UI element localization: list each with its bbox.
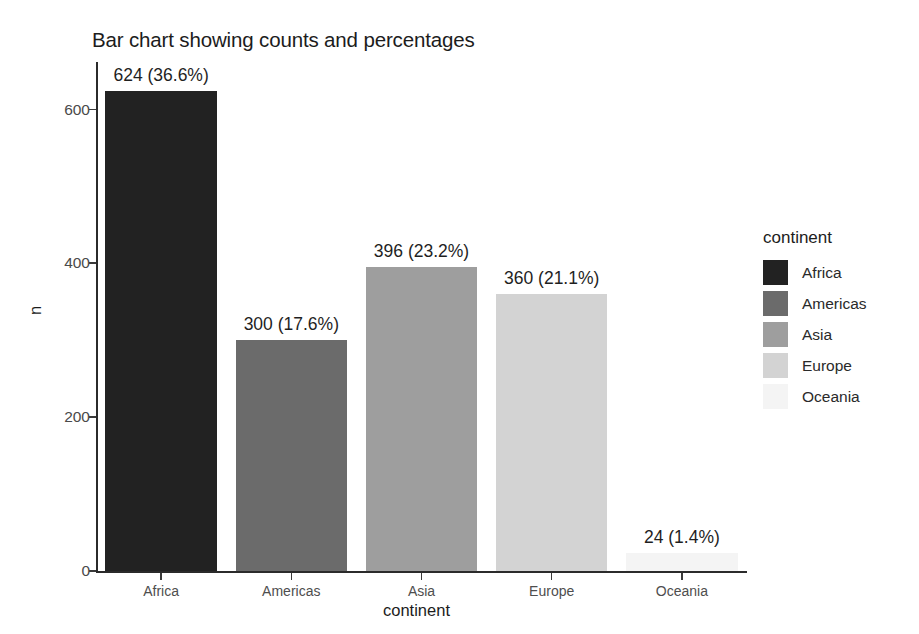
- legend: continent AfricaAmericasAsiaEuropeOceani…: [763, 228, 913, 412]
- bar-label-americas: 300 (17.6%): [244, 314, 339, 335]
- legend-title: continent: [763, 228, 913, 248]
- chart-title: Bar chart showing counts and percentages: [92, 28, 475, 52]
- x-tick-mark: [160, 573, 162, 580]
- bar-label-africa: 624 (36.6%): [113, 65, 208, 86]
- legend-swatch-oceania: [763, 384, 788, 409]
- x-axis-title: continent: [383, 601, 450, 620]
- y-tick-label: 200: [64, 408, 90, 426]
- bar-label-europe: 360 (21.1%): [504, 268, 599, 289]
- x-tick-mark: [421, 573, 423, 580]
- x-tick-label-oceania: Oceania: [656, 583, 708, 599]
- bar-africa[interactable]: [105, 91, 216, 571]
- x-tick-mark: [291, 573, 293, 580]
- legend-item-europe[interactable]: Europe: [763, 350, 913, 381]
- x-tick-label-europe: Europe: [529, 583, 574, 599]
- bar-label-asia: 396 (23.2%): [374, 241, 469, 262]
- y-tick-label: 400: [64, 254, 90, 272]
- legend-item-americas[interactable]: Americas: [763, 288, 913, 319]
- legend-swatch-europe: [763, 353, 788, 378]
- chart-root: Bar chart showing counts and percentages…: [0, 0, 919, 634]
- legend-label-europe: Europe: [802, 357, 852, 375]
- x-tick-mark: [551, 573, 553, 580]
- y-tick-label: 0: [81, 562, 90, 580]
- y-tick-label: 600: [64, 101, 90, 119]
- legend-label-americas: Americas: [802, 295, 867, 313]
- bar-europe[interactable]: [496, 294, 607, 571]
- x-tick-mark: [681, 573, 683, 580]
- legend-swatch-americas: [763, 291, 788, 316]
- legend-label-asia: Asia: [802, 326, 832, 344]
- y-axis-line: [96, 62, 98, 573]
- bar-oceania[interactable]: [626, 553, 737, 571]
- legend-swatch-asia: [763, 322, 788, 347]
- legend-item-asia[interactable]: Asia: [763, 319, 913, 350]
- plot-panel: 0200400600 AfricaAmericasAsiaEuropeOcean…: [96, 62, 747, 573]
- bar-americas[interactable]: [236, 340, 347, 571]
- bar-asia[interactable]: [366, 267, 477, 571]
- x-tick-label-africa: Africa: [143, 583, 179, 599]
- x-tick-label-americas: Americas: [262, 583, 320, 599]
- legend-item-africa[interactable]: Africa: [763, 257, 913, 288]
- legend-label-oceania: Oceania: [802, 388, 860, 406]
- legend-items: AfricaAmericasAsiaEuropeOceania: [763, 257, 913, 412]
- legend-item-oceania[interactable]: Oceania: [763, 381, 913, 412]
- x-axis-title-wrap: continent: [0, 601, 919, 620]
- y-axis-title: n: [26, 306, 45, 315]
- legend-label-africa: Africa: [802, 264, 842, 282]
- bar-label-oceania: 24 (1.4%): [644, 527, 720, 548]
- x-tick-label-asia: Asia: [408, 583, 435, 599]
- legend-swatch-africa: [763, 260, 788, 285]
